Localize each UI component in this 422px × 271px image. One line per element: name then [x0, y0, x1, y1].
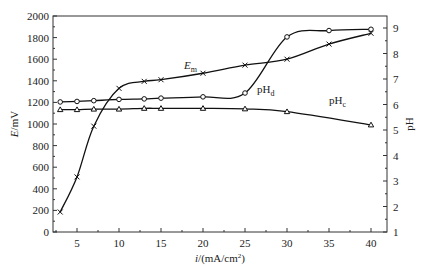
triangle-marker — [242, 106, 247, 111]
triangle-marker — [142, 106, 147, 111]
y-right-tick-label: 6 — [393, 99, 399, 111]
x-tick-label: 40 — [366, 237, 378, 249]
circle-marker — [92, 98, 97, 103]
axes: 0200400600800100012001400160018002000123… — [8, 10, 415, 265]
x-tick-label: 20 — [198, 237, 210, 249]
y-right-axis-label: pH — [403, 117, 415, 131]
triangle-marker — [91, 106, 96, 111]
circle-marker — [201, 95, 206, 100]
triangle-marker — [158, 106, 163, 111]
y-tick-label: 1200 — [27, 96, 50, 108]
circle-marker — [327, 28, 332, 33]
series-label-pH_c: pHc — [329, 94, 346, 109]
y-right-tick-label: 3 — [393, 175, 399, 187]
y-right-tick-label: 2 — [393, 201, 399, 213]
y-tick-label: 200 — [33, 204, 50, 216]
triangle-marker — [368, 122, 373, 127]
circle-marker — [117, 97, 122, 102]
y-tick-label: 1600 — [27, 53, 50, 65]
chart: 0200400600800100012001400160018002000123… — [0, 0, 422, 271]
x-marker — [117, 86, 122, 91]
y-axis-label: E/mV — [8, 111, 20, 138]
triangle-marker — [116, 106, 121, 111]
y-tick-label: 1800 — [27, 32, 50, 44]
circle-marker — [142, 97, 147, 102]
data-series — [58, 27, 374, 215]
y-right-tick-label: 1 — [393, 226, 399, 238]
x-tick-label: 25 — [240, 237, 252, 249]
triangle-marker — [284, 109, 289, 114]
x-tick-label: 35 — [324, 237, 336, 249]
series-line-E_m — [60, 33, 371, 212]
x-tick-label: 30 — [282, 237, 294, 249]
y-tick-label: 1000 — [27, 118, 50, 130]
x-marker — [58, 210, 63, 215]
y-tick-label: 1400 — [27, 75, 50, 87]
y-tick-label: 400 — [33, 183, 50, 195]
y-tick-label: 2000 — [27, 10, 50, 22]
triangle-marker — [200, 106, 205, 111]
y-tick-label: 800 — [33, 140, 50, 152]
circle-marker — [243, 91, 248, 96]
x-tick-label: 5 — [74, 237, 80, 249]
y-right-tick-label: 5 — [393, 124, 399, 136]
x-tick-label: 10 — [114, 237, 126, 249]
circle-marker — [285, 35, 290, 40]
y-right-tick-label: 8 — [393, 48, 399, 60]
series-line-pH_c — [60, 108, 371, 125]
series-label-pH_d: pHd — [257, 83, 274, 98]
circle-marker — [75, 99, 80, 104]
circle-marker — [159, 96, 164, 101]
y-tick-label: 0 — [44, 226, 50, 238]
series-line-pH_d — [60, 29, 371, 102]
y-right-tick-label: 4 — [393, 150, 399, 162]
triangle-marker — [74, 107, 79, 112]
y-right-tick-label: 7 — [393, 73, 399, 85]
y-tick-label: 600 — [33, 161, 50, 173]
chart-svg: 0200400600800100012001400160018002000123… — [0, 0, 422, 271]
circle-marker — [369, 27, 374, 32]
circle-marker — [58, 100, 63, 105]
x-marker — [91, 124, 96, 129]
plot-frame — [53, 16, 387, 232]
series-label-E_m: Em — [183, 59, 198, 74]
x-tick-label: 15 — [156, 237, 168, 249]
triangle-marker — [58, 107, 63, 112]
y-right-tick-label: 9 — [393, 22, 399, 34]
x-axis-label: i/(mA/cm2) — [195, 252, 245, 265]
